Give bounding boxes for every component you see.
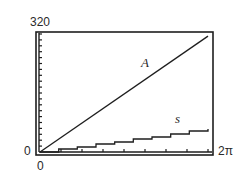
series-a-label: A	[141, 57, 149, 69]
series-s-label: s	[175, 113, 180, 125]
y-min-label: 0	[24, 145, 31, 157]
series-s-line	[40, 129, 208, 152]
x-min-label: 0	[37, 160, 44, 172]
x-max-label: 2π	[218, 145, 233, 157]
y-max-label: 320	[30, 16, 50, 28]
